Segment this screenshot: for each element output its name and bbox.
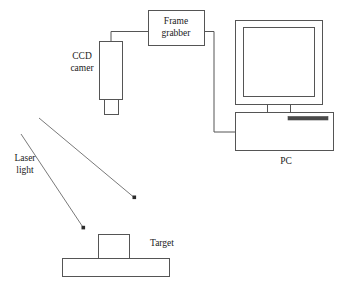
frame-grabber-label-line2: grabber xyxy=(161,28,191,38)
laser-measurement-diagram: Frame grabber CCD camer PC Laser light T… xyxy=(0,0,344,292)
ccd-camera-label-line1: CCD xyxy=(72,51,92,61)
pc-drive-slot-icon xyxy=(288,117,328,121)
pc-label: PC xyxy=(280,156,292,166)
laser-ray-lower-arrowhead xyxy=(82,226,86,230)
diagram-canvas: Frame grabber CCD camer PC Laser light T… xyxy=(0,0,344,292)
laser-ray-upper xyxy=(39,118,133,197)
camera-to-frame-grabber-cable xyxy=(111,32,148,42)
frame-grabber-to-pc-cable xyxy=(205,32,235,133)
frame-grabber-label-line1: Frame xyxy=(164,16,188,26)
laser-ray-upper-arrowhead xyxy=(133,196,137,200)
laser-light-label-line2: light xyxy=(16,165,34,175)
pc-monitor-neck xyxy=(268,105,291,113)
ccd-camera-lens xyxy=(105,100,119,115)
target-base xyxy=(63,259,170,277)
pc-monitor-screen xyxy=(244,28,315,97)
laser-ray-lower xyxy=(21,134,83,227)
target-label: Target xyxy=(150,238,174,248)
target-block xyxy=(99,235,130,259)
ccd-camera-body xyxy=(100,42,123,100)
laser-light-label-line1: Laser xyxy=(14,153,36,163)
ccd-camera-label-line2: camer xyxy=(70,63,94,73)
